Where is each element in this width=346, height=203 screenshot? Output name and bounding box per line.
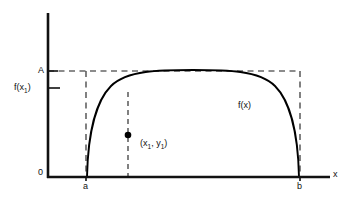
point-label-open: (x bbox=[140, 138, 148, 148]
dashed-bounding-box bbox=[48, 71, 300, 177]
point-label-mid: , y bbox=[151, 138, 161, 148]
curve-label-fx: f(x) bbox=[238, 101, 251, 110]
plot-canvas bbox=[0, 0, 346, 203]
x-tick-label-a: a bbox=[83, 182, 88, 191]
point-marker-x1-y1 bbox=[125, 132, 132, 139]
curve-fx bbox=[87, 70, 299, 177]
figure-container: A f(x1) 0 a b x f(x) (x1, y1) bbox=[0, 0, 346, 203]
origin-label: 0 bbox=[38, 168, 43, 177]
axis-label-f-x1-tail: ) bbox=[28, 82, 31, 92]
axis-label-A: A bbox=[38, 66, 44, 75]
x-tick-label-b: b bbox=[297, 182, 302, 191]
point-label-close: ) bbox=[164, 138, 167, 148]
axis-label-f-x1-head: f(x bbox=[14, 82, 24, 92]
point-label-x1-y1: (x1, y1) bbox=[140, 139, 167, 150]
axis-label-f-x1: f(x1) bbox=[14, 83, 31, 94]
x-axis-title: x bbox=[333, 170, 338, 179]
